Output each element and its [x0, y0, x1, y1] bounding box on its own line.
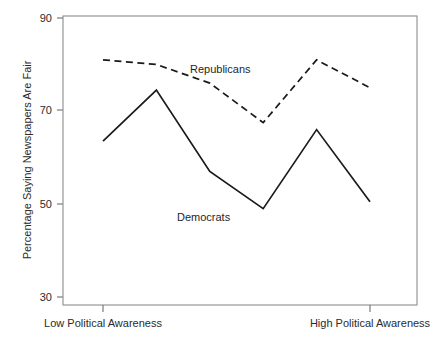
x-tick-label-high: High Political Awareness [310, 317, 430, 329]
x-axis-ticks [103, 305, 370, 312]
series-annotation-democrats: Democrats [177, 211, 231, 223]
y-tick-label: 90 [40, 12, 52, 24]
line-chart: Percentage Saying Newspapers Are Fair 90… [0, 0, 430, 362]
x-tick-label-low: Low Political Awareness [44, 317, 162, 329]
y-tick-label: 50 [40, 198, 52, 210]
y-tick-label: 30 [40, 291, 52, 303]
plot-frame [63, 16, 417, 305]
chart-container: Percentage Saying Newspapers Are Fair 90… [0, 0, 430, 362]
y-axis-label: Percentage Saying Newspapers Are Fair [21, 60, 33, 259]
y-axis-ticks [57, 18, 63, 297]
x-axis-tick-labels: Low Political Awareness High Political A… [44, 317, 430, 329]
series-line-democrats [103, 90, 370, 209]
y-tick-label: 70 [40, 104, 52, 116]
series-annotation-republicans: Republicans [190, 63, 251, 75]
y-axis-tick-labels: 90 70 50 30 [40, 12, 52, 303]
